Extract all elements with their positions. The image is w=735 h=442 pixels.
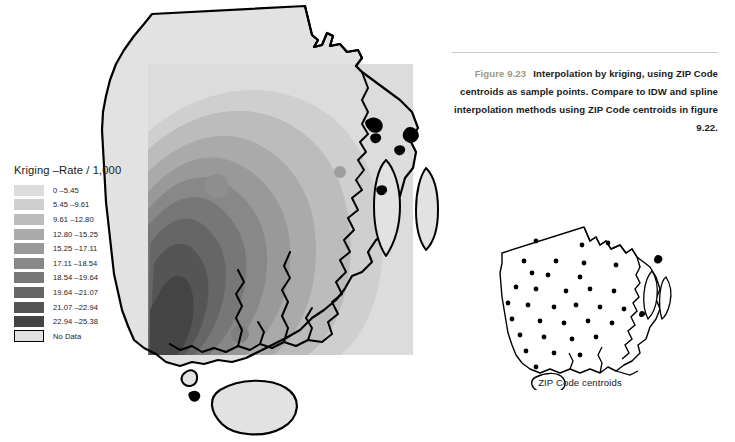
legend-row: No Data [14, 329, 139, 344]
legend-row: 21.07 –22.94 [14, 300, 139, 315]
legend-label: 19.64 –21.07 [53, 288, 98, 297]
zip-centroid-dot [598, 305, 603, 310]
inset-island-3 [654, 255, 662, 263]
legend-swatch [14, 330, 44, 342]
legend-label: 12.80 –15.25 [53, 230, 98, 239]
zip-centroid-dot [574, 303, 579, 308]
legend-label: 9.61 –12.80 [53, 215, 94, 224]
legend-row: 5.45 –9.61 [14, 198, 139, 213]
legend-row: 19.64 –21.07 [14, 285, 139, 300]
zip-centroid-dot [580, 243, 585, 248]
zip-centroids-caption: ZIP Code centroids [480, 377, 680, 388]
zip-centroid-dot [610, 321, 615, 326]
zip-centroid-dot [534, 365, 539, 370]
legend-label: 0 –5.45 [53, 186, 79, 195]
legend-swatch [14, 214, 44, 225]
legend-label: 5.45 –9.61 [53, 200, 89, 209]
legend-title: Kriging –Rate / 1,000 [14, 164, 139, 176]
zip-centroid-dot [554, 259, 559, 264]
island-small-1 [403, 128, 418, 142]
legend: Kriging –Rate / 1,000 0 –5.455.45 –9.619… [14, 164, 139, 344]
legend-row: 12.80 –15.25 [14, 227, 139, 242]
zip-centroid-dot [606, 241, 611, 246]
contour-hotspot-upper [205, 174, 228, 199]
legend-label: 21.07 –22.94 [53, 303, 98, 312]
legend-label: No Data [53, 332, 81, 341]
legend-swatch [14, 243, 44, 254]
legend-swatch [14, 229, 44, 240]
island-small-4 [377, 186, 387, 194]
zip-centroid-dot [542, 335, 547, 340]
island-small-3 [371, 134, 381, 142]
zip-centroid-dot [530, 271, 535, 276]
zip-centroid-dot [546, 273, 551, 278]
legend-swatch [14, 258, 44, 269]
legend-label: 15.25 –17.11 [53, 244, 97, 253]
zip-centroid-dot [524, 349, 529, 354]
figure-number: Figure 9.23 [475, 68, 527, 79]
legend-label: 22.94 –25.38 [53, 317, 98, 326]
legend-rows: 0 –5.455.45 –9.619.61 –12.8012.80 –15.25… [14, 183, 139, 344]
legend-row: 18.54 –19.64 [14, 271, 139, 286]
contour-spot-right [334, 166, 346, 178]
zip-centroid-dot [534, 287, 539, 292]
island-south-large [212, 381, 297, 435]
island-small-2 [395, 146, 405, 154]
island-large-east [416, 168, 438, 250]
legend-label: 17.11 –18.54 [53, 259, 97, 268]
legend-row: 22.94 –25.38 [14, 314, 139, 329]
legend-swatch [14, 272, 44, 283]
kriging-raster [148, 64, 413, 372]
legend-swatch [14, 316, 44, 327]
zip-centroid-dot [510, 317, 515, 322]
legend-swatch [14, 199, 44, 210]
legend-swatch [14, 287, 44, 298]
legend-label: 18.54 –19.64 [53, 273, 98, 282]
inset-creek-3 [616, 371, 638, 375]
kriging-map-container [100, 0, 445, 442]
inset-island-2 [660, 277, 671, 319]
zip-centroid-dot [552, 351, 557, 356]
zip-centroid-dot [578, 275, 583, 280]
zip-centroid-dot [514, 285, 519, 290]
legend-row: 17.11 –18.54 [14, 256, 139, 271]
zip-centroid-dot [614, 263, 619, 268]
zip-centroid-dot [612, 289, 617, 294]
legend-row: 9.61 –12.80 [14, 212, 139, 227]
zip-centroid-dot [522, 259, 527, 264]
legend-swatch [14, 302, 44, 313]
zip-centroid-dot [582, 261, 587, 266]
island-south-small-1 [182, 370, 198, 386]
figure-caption-block: Figure 9.23Interpolation by kriging, usi… [452, 52, 718, 137]
legend-row: 15.25 –17.11 [14, 241, 139, 256]
legend-swatch [14, 185, 44, 196]
zip-centroid-dot [588, 287, 593, 292]
kriging-map-svg [100, 0, 445, 442]
zip-centroid-dot [538, 319, 543, 324]
zip-centroid-dot [578, 353, 583, 358]
zip-centroids-map-container [480, 215, 680, 390]
caption-divider [452, 52, 718, 53]
legend-row: 0 –5.45 [14, 183, 139, 198]
zip-centroid-dot [534, 239, 539, 244]
zip-centroid-dot [526, 303, 531, 308]
zip-centroid-dot [552, 305, 557, 310]
island-south-small-2 [189, 391, 200, 401]
zip-centroid-dot [622, 307, 627, 312]
southern-islands [182, 370, 297, 434]
zip-centroid-dot [570, 337, 575, 342]
zip-centroid-dot [594, 335, 599, 340]
zip-centroid-dot [518, 333, 523, 338]
figure-caption: Figure 9.23Interpolation by kriging, usi… [452, 65, 718, 137]
zip-centroid-dot [586, 319, 591, 324]
zip-centroids-svg [480, 215, 680, 390]
zip-centroid-dot [562, 321, 567, 326]
zip-centroid-dot [564, 289, 569, 294]
zip-centroid-dot [506, 301, 511, 306]
